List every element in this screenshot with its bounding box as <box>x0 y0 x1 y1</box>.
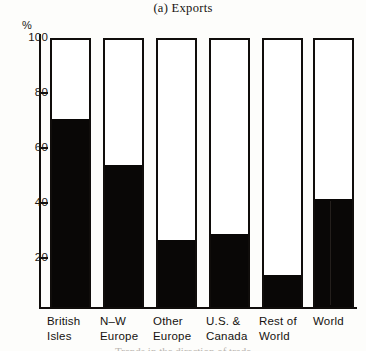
y-tick-mark-60 <box>41 147 48 149</box>
bar-outline-rest-of-world[interactable] <box>262 38 303 309</box>
category-label-rest-of-world: Rest of World <box>259 314 314 343</box>
y-tick-mark-80 <box>41 92 48 94</box>
y-tick-mark-20 <box>41 257 48 259</box>
plot-area: 100 80 60 40 20 <box>0 0 366 351</box>
y-axis-line <box>39 34 41 309</box>
y-tick-mark-40 <box>41 202 48 204</box>
bar-fill-nw-europe[interactable] <box>105 165 142 307</box>
category-label-nw-europe: N–W Europe <box>100 314 153 343</box>
y-tick-label-100: 100 <box>24 31 48 43</box>
chart-figure: (a) Exports % 100 80 60 40 20 <box>0 0 366 351</box>
bar-fill-rest-of-world[interactable] <box>264 275 301 307</box>
bar-fill-other-europe[interactable] <box>158 240 195 307</box>
category-label-us-canada: U.S. & Canada <box>206 314 261 343</box>
bar-seam-world <box>330 201 331 305</box>
clipped-caption: Trends in the direction of trade <box>0 345 366 351</box>
category-label-other-europe: Other Europe <box>153 314 206 343</box>
y-tick-100: 100 <box>0 31 48 45</box>
bar-fill-british-isles[interactable] <box>52 119 89 307</box>
bar-fill-world[interactable] <box>315 199 352 307</box>
category-label-british-isles: British Isles <box>47 314 100 343</box>
category-label-world: World <box>313 314 366 329</box>
bar-fill-us-canada[interactable] <box>211 234 248 307</box>
